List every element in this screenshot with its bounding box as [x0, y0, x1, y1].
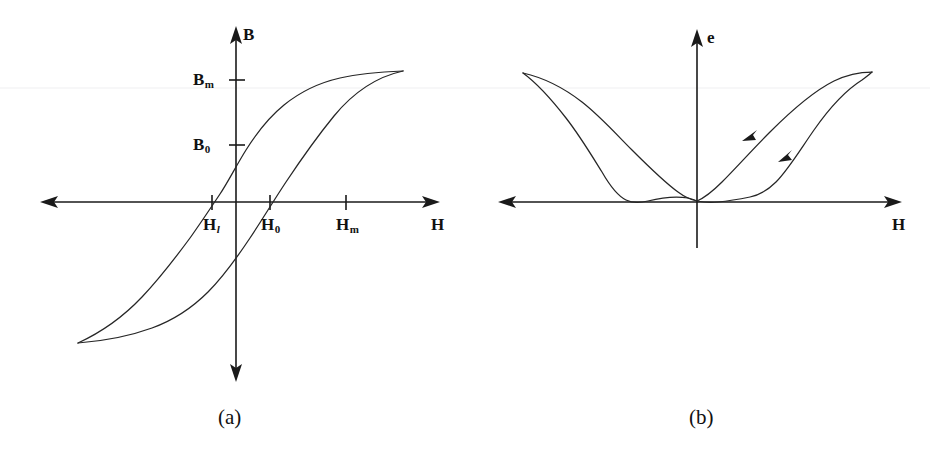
panel-a: B H Bm B0 Hl H0 Hm (a) [0, 0, 465, 457]
figure-canvas: B H Bm B0 Hl H0 Hm (a) e H (b) [0, 0, 930, 457]
panel-a-y-tick-label-Bm: Bm [193, 71, 214, 88]
panel-a-y-tick-label-B0: B0 [193, 136, 210, 153]
panel-b: e H (b) [465, 0, 930, 457]
panel-a-x-tick-label-Hl-base: H [203, 215, 216, 234]
panel-a-y-tick-label-B0-sub: 0 [205, 143, 211, 155]
panel-a-caption: (a) [218, 407, 241, 428]
panel-a-x-tick-label-Hm: Hm [336, 216, 358, 233]
panel-a-x-tick-label-Hl-sub: l [217, 223, 220, 235]
panel-a-x-tick-label-H0-base: H [261, 215, 274, 234]
panel-a-x-tick-label-H0: H0 [261, 216, 280, 233]
panel-a-x-tick-label-Hm-base: H [336, 215, 349, 234]
panel-b-caption: (b) [689, 407, 714, 428]
panel-a-x-tick-label-Hl: Hl [203, 216, 219, 233]
panel-a-x-tick-label-Hm-sub: m [350, 223, 359, 235]
panel-a-y-tick-label-B0-base: B [193, 135, 204, 154]
panel-a-x-tick-label-H0-sub: 0 [275, 223, 281, 235]
panel-a-y-tick-label-Bm-base: B [193, 70, 204, 89]
panel-a-x-axis-label: H [431, 216, 444, 233]
panel-a-y-axis-label: B [243, 26, 254, 43]
panel-a-y-tick-label-Bm-sub: m [205, 78, 214, 90]
panel-b-y-axis-label: e [707, 29, 715, 46]
panel-b-x-axis-label: H [892, 216, 905, 233]
